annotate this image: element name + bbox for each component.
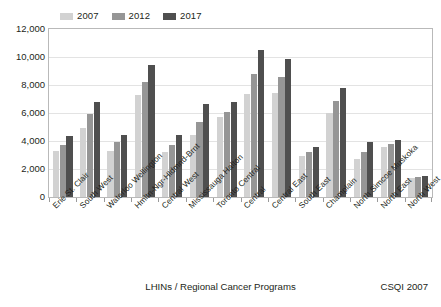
legend-label: 2017 (180, 11, 202, 21)
legend-swatch-icon (60, 13, 73, 20)
bar[interactable] (333, 101, 339, 197)
y-tick-label: 2,000 (0, 164, 45, 174)
bar[interactable] (258, 50, 264, 197)
bar-group (186, 29, 213, 197)
y-tick-label: 4,000 (0, 136, 45, 146)
y-tick-label: 12,000 (0, 24, 45, 34)
y-tick-label: 6,000 (0, 108, 45, 118)
legend-item[interactable]: 2007 (60, 11, 99, 21)
bar[interactable] (278, 77, 284, 197)
x-axis-labels: Erie St. ClairSouth WestWaterloo Welling… (0, 200, 441, 272)
legend-swatch-icon (112, 13, 125, 20)
bar[interactable] (340, 88, 346, 197)
bar[interactable] (196, 122, 202, 197)
y-tick-label: 8,000 (0, 80, 45, 90)
bar-group (323, 29, 350, 197)
bar[interactable] (142, 82, 148, 198)
bar[interactable] (87, 114, 93, 197)
y-axis: 12,00010,0008,0006,0004,0002,0000 (0, 28, 45, 198)
source-note: CSQI 2007 (381, 281, 428, 293)
legend-item[interactable]: 2012 (112, 11, 151, 21)
bar-chart: 200720122017 12,00010,0008,0006,0004,000… (0, 0, 441, 307)
legend-label: 2007 (77, 11, 99, 21)
bar[interactable] (285, 59, 291, 197)
bar[interactable] (272, 93, 278, 197)
legend-item[interactable]: 2017 (163, 11, 202, 21)
bar[interactable] (148, 65, 154, 197)
bar-group (405, 29, 432, 197)
bar-group (104, 29, 131, 197)
x-axis-title: LHINs / Regional Cancer Programs (0, 281, 441, 293)
chart-footer: LHINs / Regional Cancer Programs CSQI 20… (0, 281, 441, 297)
legend-label: 2012 (129, 11, 151, 21)
legend-swatch-icon (163, 13, 176, 20)
bar-group (350, 29, 377, 197)
bar[interactable] (224, 112, 230, 197)
bar-group (295, 29, 322, 197)
y-tick-label: 10,000 (0, 52, 45, 62)
bar-group (268, 29, 295, 197)
bar-group (49, 29, 76, 197)
bar-group (76, 29, 103, 197)
bar[interactable] (53, 151, 59, 197)
bars-layer (49, 29, 432, 197)
chart-legend: 200720122017 (60, 9, 202, 23)
